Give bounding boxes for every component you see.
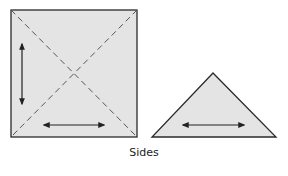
triangle-shape bbox=[152, 73, 276, 137]
diagram-caption: Sides bbox=[0, 146, 288, 159]
triangle-outline bbox=[152, 73, 276, 137]
square-shape bbox=[11, 10, 137, 137]
